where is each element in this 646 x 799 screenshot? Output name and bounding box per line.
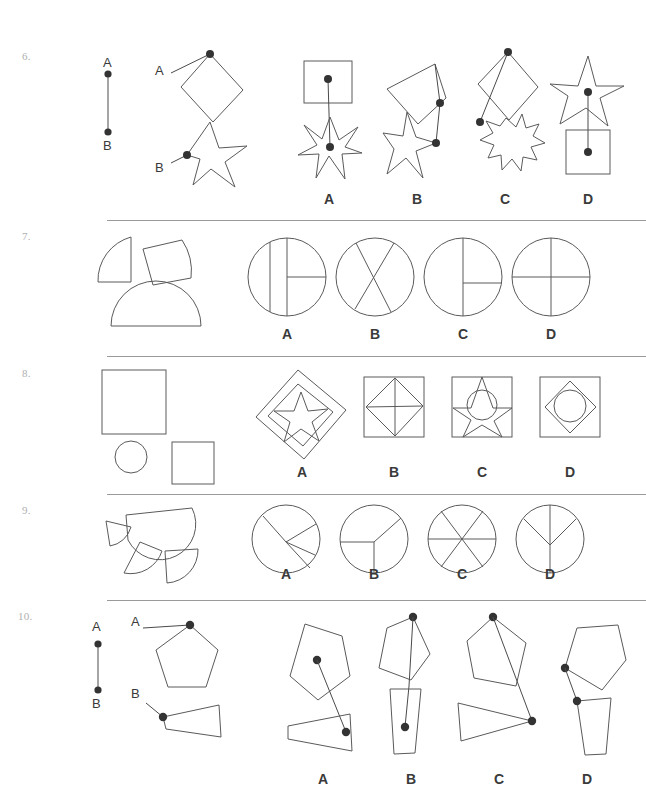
question-number-6: 6.: [22, 50, 31, 62]
test-sheet: 6. 7. 8. 9. 10. A B A B A: [0, 0, 646, 799]
q10-option-d-figure[interactable]: [545, 608, 630, 763]
question-number-8: 8.: [22, 367, 31, 379]
q7-option-letter-d: D: [541, 326, 561, 342]
q6-option-a-figure[interactable]: [298, 55, 362, 187]
q8-option-d-figure[interactable]: [538, 375, 602, 439]
question-number-10: 10.: [18, 610, 33, 622]
separator-q10: [107, 600, 646, 601]
q10-ref-label-b: B: [92, 696, 101, 711]
q10-option-letter-a: A: [313, 771, 333, 787]
q9-option-letter-c: C: [452, 566, 472, 582]
q10-prompt-figure: [128, 612, 238, 737]
q7-prompt-pieces: [96, 230, 226, 330]
q6-option-letter-a: A: [319, 191, 339, 207]
q7-option-c-figure[interactable]: [421, 235, 505, 319]
q9-option-letter-a: A: [276, 566, 296, 582]
q6-option-letter-d: D: [578, 191, 598, 207]
question-number-7: 7.: [22, 230, 31, 242]
q8-option-letter-a: A: [292, 464, 312, 480]
q6-reference-line: [96, 66, 126, 141]
q10-option-c-figure[interactable]: [456, 608, 546, 758]
q6-option-letter-c: C: [495, 191, 515, 207]
question-number-9: 9.: [22, 504, 31, 516]
q7-option-a-figure[interactable]: [245, 235, 329, 319]
separator-q8: [107, 356, 646, 357]
q10-option-letter-b: B: [401, 771, 421, 787]
q6-option-c-figure[interactable]: [468, 44, 544, 186]
q6-option-d-figure[interactable]: [550, 52, 626, 182]
q10-option-letter-c: C: [489, 771, 509, 787]
q8-option-b-figure[interactable]: [362, 375, 426, 439]
q8-prompt-pieces: [96, 365, 231, 480]
q6-option-b-figure[interactable]: [383, 50, 455, 185]
q10-ref-label-a: A: [92, 619, 101, 634]
q10-option-b-figure[interactable]: [373, 608, 443, 768]
q10-reference-line: [88, 636, 114, 698]
q6-prompt-label-b: B: [155, 160, 164, 175]
q7-option-b-figure[interactable]: [333, 235, 417, 319]
q9-option-letter-b: B: [364, 566, 384, 582]
q7-option-d-figure[interactable]: [509, 235, 593, 319]
q10-option-letter-d: D: [577, 771, 597, 787]
q9-prompt-pieces: [96, 503, 221, 588]
q7-option-letter-b: B: [365, 326, 385, 342]
separator-q7: [107, 220, 646, 221]
q9-option-a-figure[interactable]: [249, 502, 323, 576]
q6-option-letter-b: B: [407, 191, 427, 207]
q6-prompt-label-a: A: [155, 63, 164, 78]
q10-option-a-figure[interactable]: [284, 614, 368, 764]
q8-option-letter-c: C: [472, 464, 492, 480]
q8-option-a-figure[interactable]: [252, 366, 350, 464]
q9-option-d-figure[interactable]: [513, 502, 587, 576]
q7-option-letter-a: A: [277, 326, 297, 342]
separator-q9: [107, 494, 646, 495]
q9-option-c-figure[interactable]: [425, 502, 499, 576]
q6-prompt-figure: [165, 45, 265, 190]
q7-option-letter-c: C: [453, 326, 473, 342]
q8-option-letter-b: B: [384, 464, 404, 480]
q8-option-c-figure[interactable]: [450, 375, 514, 439]
q9-option-letter-d: D: [540, 566, 560, 582]
q9-option-b-figure[interactable]: [337, 502, 411, 576]
q8-option-letter-d: D: [560, 464, 580, 480]
